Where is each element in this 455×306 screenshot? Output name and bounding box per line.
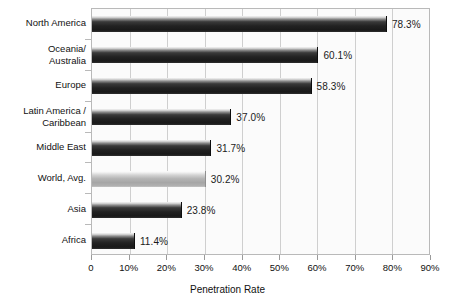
x-tick bbox=[204, 255, 205, 260]
x-axis-title: Penetration Rate bbox=[0, 284, 455, 295]
x-tick-label: 50% bbox=[270, 262, 289, 273]
x-tick-label: 70% bbox=[345, 262, 364, 273]
bar-value-label: 23.8% bbox=[187, 204, 216, 215]
x-tick-label: 20% bbox=[157, 262, 176, 273]
x-tick-label: 80% bbox=[383, 262, 402, 273]
x-tick-label: 60% bbox=[307, 262, 326, 273]
x-tick bbox=[392, 255, 393, 260]
x-tick bbox=[166, 255, 167, 260]
bar bbox=[92, 171, 206, 187]
x-tick bbox=[430, 255, 431, 260]
y-tick bbox=[85, 162, 91, 163]
y-tick bbox=[85, 39, 91, 40]
category-label: Africa bbox=[0, 234, 86, 246]
bar-value-label: 60.1% bbox=[323, 50, 352, 61]
bar-row: 58.3% bbox=[92, 71, 429, 102]
bar-rows: 78.3%60.1%58.3%37.0%31.7%30.2%23.8%11.4% bbox=[92, 9, 429, 254]
bar-row: 37.0% bbox=[92, 102, 429, 133]
category-axis-labels: North AmericaOceania/ AustraliaEuropeLat… bbox=[0, 8, 86, 255]
x-tick bbox=[279, 255, 280, 260]
bar-row: 60.1% bbox=[92, 40, 429, 71]
bar-row: 31.7% bbox=[92, 133, 429, 164]
x-tick bbox=[242, 255, 243, 260]
category-label: Middle East bbox=[0, 141, 86, 153]
bar-value-label: 30.2% bbox=[211, 173, 240, 184]
category-label: Latin America / Caribbean bbox=[0, 105, 86, 128]
y-tick bbox=[85, 193, 91, 194]
y-tick bbox=[85, 101, 91, 102]
bar-value-label: 58.3% bbox=[317, 81, 346, 92]
category-label: Asia bbox=[0, 203, 86, 215]
bar-row: 78.3% bbox=[92, 9, 429, 40]
plot-area: 78.3%60.1%58.3%37.0%31.7%30.2%23.8%11.4% bbox=[91, 8, 430, 255]
x-tick-label: 40% bbox=[232, 262, 251, 273]
x-tick-label: 30% bbox=[194, 262, 213, 273]
y-tick bbox=[85, 224, 91, 225]
x-tick bbox=[91, 255, 92, 260]
bar bbox=[92, 109, 231, 125]
bar bbox=[92, 78, 312, 94]
x-tick bbox=[355, 255, 356, 260]
bar-row: 23.8% bbox=[92, 194, 429, 225]
bar bbox=[92, 140, 211, 156]
bar bbox=[92, 16, 387, 32]
y-tick bbox=[85, 132, 91, 133]
bar-value-label: 37.0% bbox=[236, 112, 265, 123]
bar-row: 30.2% bbox=[92, 163, 429, 194]
bar-chart: 78.3%60.1%58.3%37.0%31.7%30.2%23.8%11.4%… bbox=[0, 0, 455, 306]
y-tick bbox=[85, 70, 91, 71]
bar bbox=[92, 47, 318, 63]
x-tick-label: 0 bbox=[88, 262, 93, 273]
bar-row: 11.4% bbox=[92, 225, 429, 256]
bar-value-label: 11.4% bbox=[140, 235, 168, 246]
x-tick-label: 90% bbox=[420, 262, 439, 273]
bar bbox=[92, 233, 135, 249]
bar-value-label: 78.3% bbox=[392, 19, 421, 30]
bar bbox=[92, 202, 182, 218]
category-label: World, Avg. bbox=[0, 172, 86, 184]
category-label: Europe bbox=[0, 79, 86, 91]
category-label: Oceania/ Australia bbox=[0, 43, 86, 66]
bar-value-label: 31.7% bbox=[216, 142, 245, 153]
x-tick bbox=[129, 255, 130, 260]
category-label: North America bbox=[0, 18, 86, 30]
x-tick-label: 10% bbox=[119, 262, 138, 273]
x-tick bbox=[317, 255, 318, 260]
